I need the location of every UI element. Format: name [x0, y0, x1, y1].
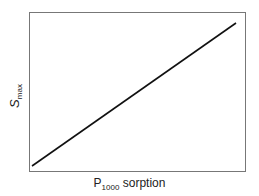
x-axis-label: P1000 sorption — [0, 176, 259, 192]
series-line — [32, 23, 236, 166]
chart-plot-area — [0, 0, 259, 196]
y-axis-label: Smax — [7, 84, 24, 108]
